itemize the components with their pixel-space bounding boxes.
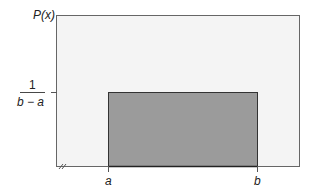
y-tick-numerator: 1 (29, 79, 36, 91)
x-tick-label-b: b (254, 175, 261, 187)
y-tick-denominator: b − a (17, 96, 44, 108)
y-axis-label: P(x) (33, 9, 55, 21)
probability-region (109, 93, 258, 167)
x-tick-label-a: a (105, 175, 112, 187)
uniform-distribution-chart (0, 0, 314, 193)
